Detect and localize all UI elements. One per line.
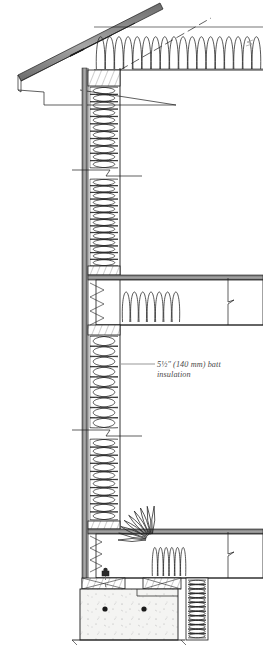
mid-floor-top-plate bbox=[88, 325, 120, 335]
callout-line-2: insulation bbox=[157, 370, 191, 379]
break-line-attic-right bbox=[246, 40, 253, 46]
concrete-foundation-wall bbox=[80, 589, 178, 640]
attic-batt-loops bbox=[96, 37, 261, 69]
exterior-sheathing bbox=[82, 68, 87, 598]
rebar-dot-1 bbox=[102, 606, 107, 611]
lower-wall-bottom-plate bbox=[88, 521, 120, 529]
ground-floor-subfloor bbox=[88, 529, 263, 534]
lower-wall-batt-loops bbox=[90, 336, 118, 520]
intermediate-floor-assembly bbox=[88, 266, 263, 335]
mid-wall-cavity bbox=[90, 179, 118, 266]
callout-line-1: 5½″ (140 mm) batt bbox=[157, 360, 221, 369]
grade-tick-right bbox=[181, 640, 186, 645]
top-plate bbox=[88, 70, 120, 86]
attic-insulation bbox=[94, 27, 263, 70]
batt-insulation-callout: 5½″ (140 mm) batt insulation bbox=[121, 360, 221, 379]
wall-section-drawing: 5½″ (140 mm) batt insulation bbox=[0, 0, 263, 650]
soffit-line bbox=[18, 90, 44, 105]
foundation-assembly bbox=[72, 568, 208, 645]
section-drawing-canvas: 5½″ (140 mm) batt insulation bbox=[0, 0, 263, 650]
mid-wall-batt-loops bbox=[90, 179, 118, 266]
upper-wall-cavity bbox=[88, 70, 120, 168]
mid-floor-bottom-plate bbox=[88, 266, 120, 275]
lower-wall-cavity bbox=[90, 336, 118, 520]
upper-wall-batt-loops bbox=[90, 87, 118, 168]
mid-floor-subfloor bbox=[88, 275, 263, 280]
roof-deck bbox=[18, 3, 163, 81]
rebar-dot-2 bbox=[141, 606, 146, 611]
grade-tick-left bbox=[72, 640, 77, 645]
